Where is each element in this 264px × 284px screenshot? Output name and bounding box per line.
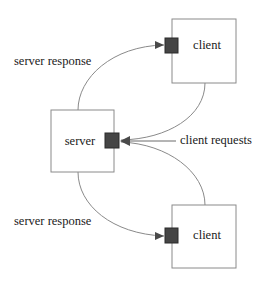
diagram-canvas: client server client server response cli… (0, 0, 264, 284)
edge-client-requests-bottom (121, 142, 205, 205)
edge-label-server-response-bottom: server response (14, 214, 92, 228)
port-client-top-icon (165, 38, 178, 53)
diagram-svg: client server client server response cli… (0, 0, 264, 284)
arrow-head-client-top-icon (155, 41, 164, 49)
edge-client-requests-top (121, 83, 205, 140)
arrow-head-server-icon (120, 136, 130, 146)
edge-label-server-response-top: server response (14, 54, 92, 68)
edge-label-client-requests: client requests (180, 133, 252, 147)
node-label-client-bottom: client (193, 228, 221, 242)
node-label-client-top: client (193, 38, 221, 52)
node-label-server: server (65, 134, 96, 148)
port-client-bottom-icon (165, 228, 178, 243)
arrow-head-client-bottom-icon (155, 232, 164, 240)
port-server-icon (105, 133, 119, 148)
